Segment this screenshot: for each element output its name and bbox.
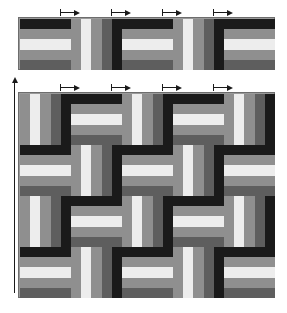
block-stripe xyxy=(61,196,71,247)
block-stripe xyxy=(122,288,173,298)
quilt-block-horizontal xyxy=(20,19,71,70)
quilt-block-vertical xyxy=(122,94,173,145)
block-stripe xyxy=(224,186,275,196)
block-stripe xyxy=(20,176,71,186)
block-stripe xyxy=(153,196,163,247)
block-stripe xyxy=(20,29,71,39)
block-stripe xyxy=(173,114,224,124)
block-stripe xyxy=(173,125,224,135)
block-stripe xyxy=(122,145,173,155)
block-stripe xyxy=(204,19,214,70)
block-stripe xyxy=(122,155,173,165)
block-stripe xyxy=(173,247,183,298)
block-stripe xyxy=(122,267,173,277)
quilt-block-vertical xyxy=(173,145,224,196)
arrow-head xyxy=(74,85,80,91)
block-stripe xyxy=(30,94,40,145)
block-stripe xyxy=(71,135,122,145)
arrow-shaft xyxy=(162,87,178,88)
block-stripe xyxy=(71,216,122,226)
arrow-tail xyxy=(60,84,61,91)
block-stripe xyxy=(193,145,203,196)
block-stripe xyxy=(224,278,275,288)
block-stripe xyxy=(51,94,61,145)
block-stripe xyxy=(112,145,122,196)
block-stripe xyxy=(173,196,224,206)
arrow-shaft xyxy=(60,12,76,13)
block-stripe xyxy=(30,196,40,247)
block-stripe xyxy=(40,94,50,145)
block-stripe xyxy=(71,247,81,298)
arrow-tail xyxy=(162,9,163,16)
right-arrow-icon xyxy=(60,84,80,91)
block-stripe xyxy=(71,114,122,124)
arrow-shaft xyxy=(111,12,127,13)
arrow-head xyxy=(125,85,131,91)
quilt-diagram-canvas xyxy=(0,0,287,313)
block-stripe xyxy=(173,135,224,145)
right-arrow-icon xyxy=(213,84,233,91)
block-stripe xyxy=(163,94,173,145)
block-stripe xyxy=(20,39,71,49)
quilt-block-horizontal xyxy=(122,247,173,298)
arrow-shaft xyxy=(60,87,76,88)
block-stripe xyxy=(102,145,112,196)
block-stripe xyxy=(122,257,173,267)
block-stripe xyxy=(20,94,30,145)
block-stripe xyxy=(255,94,265,145)
block-stripe xyxy=(224,29,275,39)
block-stripe xyxy=(122,196,132,247)
block-stripe xyxy=(265,196,275,247)
block-stripe xyxy=(234,196,244,247)
block-stripe xyxy=(224,288,275,298)
block-stripe xyxy=(20,247,71,257)
block-stripe xyxy=(20,19,71,29)
block-stripe xyxy=(40,196,50,247)
arrow-tail xyxy=(60,9,61,16)
block-stripe xyxy=(224,19,275,29)
arrow-shaft xyxy=(213,87,229,88)
block-stripe xyxy=(122,186,173,196)
block-stripe xyxy=(20,288,71,298)
arrow-tail xyxy=(162,84,163,91)
block-stripe xyxy=(122,278,173,288)
arrow-shaft xyxy=(213,12,229,13)
block-stripe xyxy=(122,60,173,70)
block-stripe xyxy=(193,247,203,298)
arrow-tail xyxy=(111,84,112,91)
right-arrow-icon xyxy=(162,84,182,91)
block-stripe xyxy=(234,94,244,145)
arrow-head xyxy=(74,10,80,16)
block-stripe xyxy=(224,155,275,165)
block-stripe xyxy=(20,50,71,60)
quilt-block-vertical xyxy=(173,247,224,298)
quilt-block-horizontal xyxy=(71,196,122,247)
block-stripe xyxy=(132,94,142,145)
block-stripe xyxy=(244,94,254,145)
block-stripe xyxy=(71,206,122,216)
arrow-head xyxy=(227,85,233,91)
up-arrow-icon xyxy=(11,77,18,293)
block-stripe xyxy=(71,125,122,135)
block-stripe xyxy=(112,19,122,70)
arrow-head xyxy=(12,77,18,83)
block-stripe xyxy=(173,19,183,70)
block-stripe xyxy=(173,206,224,216)
block-stripe xyxy=(265,94,275,145)
quilt-block-horizontal xyxy=(173,196,224,247)
block-stripe xyxy=(20,278,71,288)
block-stripe xyxy=(255,196,265,247)
block-stripe xyxy=(122,176,173,186)
block-stripe xyxy=(71,145,81,196)
block-stripe xyxy=(173,237,224,247)
block-stripe xyxy=(224,267,275,277)
block-stripe xyxy=(214,145,224,196)
block-stripe xyxy=(173,216,224,226)
block-stripe xyxy=(132,196,142,247)
block-stripe xyxy=(224,94,234,145)
block-stripe xyxy=(102,19,112,70)
block-stripe xyxy=(20,196,30,247)
arrow-head xyxy=(227,10,233,16)
block-stripe xyxy=(183,247,193,298)
block-stripe xyxy=(20,155,71,165)
